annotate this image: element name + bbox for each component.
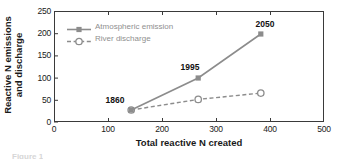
point-annotation-2050: 2050 xyxy=(256,19,275,29)
legend-label: River discharge xyxy=(95,34,151,43)
x-tick-label: 200 xyxy=(147,124,177,134)
atmospheric-emission-point xyxy=(196,75,201,80)
river-discharge-point xyxy=(258,90,264,96)
y-axis-ticks xyxy=(54,12,58,123)
chart-legend: Atmospheric emission River discharge xyxy=(66,21,216,45)
legend-item-atmospheric-emission: Atmospheric emission xyxy=(66,21,216,32)
atmospheric-emission-point xyxy=(258,31,263,36)
figure-container: Reactive N emissions and discharge 250 2… xyxy=(0,0,339,161)
x-axis-tick-labels: 0 100 200 300 400 500 xyxy=(54,124,324,136)
legend-sample-solid-square xyxy=(66,21,92,32)
legend-label: Atmospheric emission xyxy=(95,22,173,31)
x-tick-label: 400 xyxy=(255,124,285,134)
atmospheric-emission-point xyxy=(129,107,134,112)
x-axis-ticks xyxy=(55,118,324,122)
point-annotation-1860: 1860 xyxy=(106,95,125,105)
legend-item-river-discharge: River discharge xyxy=(66,33,216,44)
x-tick-label: 100 xyxy=(93,124,123,134)
river-discharge-point xyxy=(195,96,201,102)
legend-sample-dashed-circle xyxy=(66,33,92,44)
x-tick-label: 300 xyxy=(201,124,231,134)
x-axis-title: Total reactive N created xyxy=(54,137,324,148)
x-tick-label: 500 xyxy=(309,124,339,134)
figure-caption: Figure 1 xyxy=(12,152,43,159)
x-tick-label: 0 xyxy=(39,124,69,134)
point-annotation-1995: 1995 xyxy=(181,62,200,72)
top-axis-ticks xyxy=(109,11,271,15)
